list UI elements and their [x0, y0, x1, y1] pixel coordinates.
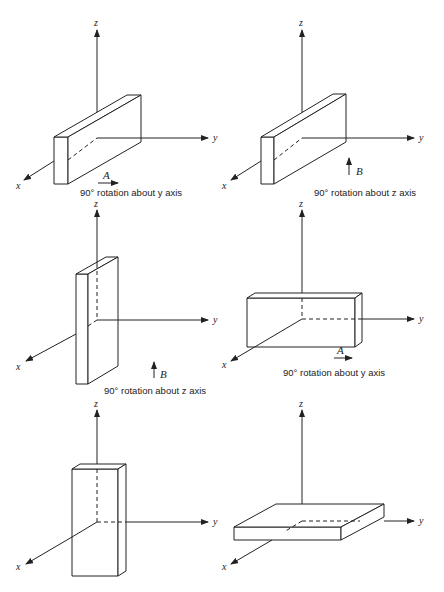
- z-label: z: [93, 17, 98, 28]
- svg-text:y: y: [212, 314, 218, 325]
- panel-3: z y x B 90° rotation about z axis: [15, 198, 218, 396]
- arrow-label: A: [102, 169, 110, 181]
- block-top-face: [72, 464, 126, 469]
- block-end-face: [261, 137, 274, 184]
- svg-text:z: z: [298, 398, 303, 409]
- x-axis: [26, 334, 76, 361]
- svg-text:z: z: [298, 198, 303, 209]
- panel-caption: 90° rotation about y axis: [80, 187, 182, 198]
- panel-caption: 90° rotation about z axis: [314, 187, 416, 198]
- block-top-face: [247, 293, 362, 298]
- panel-1: z y x A 90° rotation about y axis: [15, 17, 218, 198]
- panel-4: z y x A 90° rotation about y axis: [221, 198, 424, 378]
- svg-text:y: y: [418, 132, 424, 143]
- block-side-face: [355, 293, 362, 347]
- panel-5: z y x: [15, 398, 218, 576]
- svg-text:z: z: [93, 398, 98, 409]
- svg-text:x: x: [221, 180, 227, 191]
- panel-caption: 90° rotation about y axis: [283, 367, 385, 378]
- block-end-face: [54, 137, 68, 184]
- svg-text:y: y: [418, 313, 424, 324]
- y-label: y: [212, 132, 218, 143]
- svg-text:x: x: [221, 359, 227, 370]
- svg-text:x: x: [221, 561, 227, 572]
- block-side-face: [118, 464, 126, 576]
- block-front-face: [234, 527, 341, 540]
- x-label: x: [15, 180, 21, 191]
- svg-text:y: y: [418, 515, 424, 526]
- svg-text:A: A: [336, 344, 344, 356]
- svg-text:x: x: [15, 561, 21, 572]
- panel-caption: 90° rotation about z axis: [104, 385, 206, 396]
- svg-text:y: y: [212, 516, 218, 527]
- x-axis: [24, 161, 54, 180]
- x-axis: [231, 161, 261, 180]
- svg-text:z: z: [93, 198, 98, 209]
- svg-text:x: x: [15, 361, 21, 372]
- x-axis: [26, 537, 72, 564]
- svg-text:B: B: [160, 368, 167, 380]
- rotation-diagram: z y x A 90° rotation about y axis z y x …: [0, 0, 444, 592]
- svg-text:z: z: [298, 17, 303, 28]
- panel-2: z y x B 90° rotation about z axis: [221, 17, 424, 198]
- panel-6: z y x: [221, 398, 424, 572]
- svg-text:B: B: [356, 165, 363, 177]
- x-axis: [231, 540, 272, 564]
- block-end-face: [76, 274, 88, 384]
- block-front-face: [247, 298, 355, 347]
